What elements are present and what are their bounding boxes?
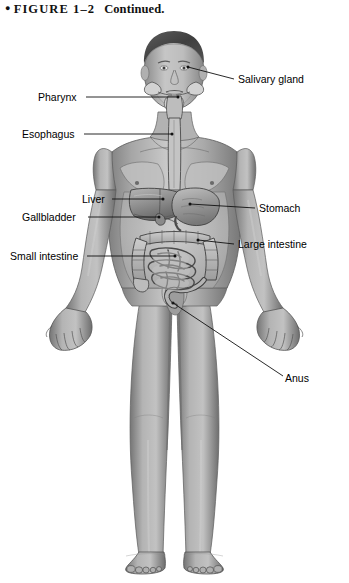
label-stomach: Stomach: [259, 203, 300, 214]
feet: [126, 552, 224, 574]
anatomy-illustration: [0, 0, 349, 583]
label-liver: Liver: [82, 194, 105, 205]
hand-left: [46, 308, 92, 350]
small-intestine-shading: [152, 251, 190, 290]
label-salivary-gland: Salivary gland: [238, 74, 304, 85]
label-anus: Anus: [285, 373, 309, 384]
legs: [130, 300, 219, 556]
label-large-intestine: Large intestine: [238, 239, 307, 250]
label-gallbladder: Gallbladder: [22, 212, 76, 223]
label-esophagus: Esophagus: [22, 129, 75, 140]
label-small-intestine: Small intestine: [10, 251, 78, 262]
pharynx-organ: [167, 96, 183, 119]
label-pharynx: Pharynx: [38, 92, 77, 103]
hand-right: [257, 308, 303, 350]
esophagus-organ: [168, 118, 181, 190]
